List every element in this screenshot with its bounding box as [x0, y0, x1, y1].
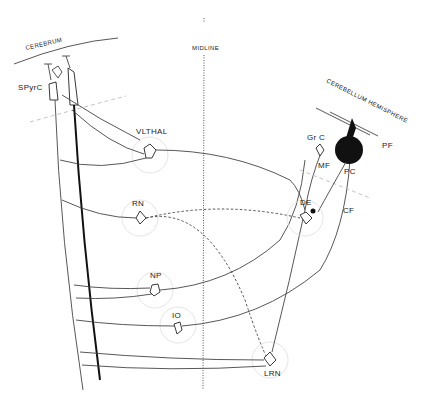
vlthal-label: VLTHAL — [136, 127, 168, 136]
io-label: IO — [172, 311, 181, 320]
cerebellum-surface — [316, 108, 370, 135]
corticospinal-tract-bold — [74, 105, 100, 380]
np-label: NP — [150, 271, 162, 280]
lrn-mossy-fiber — [272, 150, 322, 352]
diagram-canvas: CEREBRUM MIDLINE SPyrC VLTHAL RN NP IO — [0, 0, 429, 403]
lrn-label: LRN — [264, 369, 281, 378]
granule-cell — [316, 144, 324, 156]
pyramidal-cell-2 — [62, 56, 78, 105]
cortex-to-rn-axon — [62, 200, 136, 218]
purkinje-dendrite — [346, 118, 356, 140]
circuit-diagram: CEREBRUM MIDLINE SPyrC VLTHAL RN NP IO — [0, 0, 429, 403]
grc-label: Gr C — [307, 133, 325, 142]
cerebrum-label: CEREBRUM — [25, 37, 63, 51]
pf-label: PF — [382, 141, 393, 150]
de-to-rn-axon — [146, 209, 300, 218]
cerebellum-label: CEREBELLUM HEMISPHERE — [326, 78, 409, 124]
vlthal-neuron — [144, 144, 156, 158]
rn-to-lrn-axon — [146, 216, 268, 360]
cortex-to-io-axon — [76, 320, 174, 326]
spyrc-label: SPyrC — [18, 83, 43, 92]
pyramidal-cell-1 — [44, 64, 62, 100]
rn-neuron — [136, 211, 146, 224]
cortex-branch-vlthal — [60, 158, 146, 166]
de-label: DE — [300, 198, 312, 207]
cortex-to-lrn-axon-2 — [82, 365, 266, 369]
de-to-vlthal-axon — [156, 150, 305, 210]
de-neuron — [300, 212, 312, 224]
corticospinal-tract-thin — [55, 100, 83, 390]
purkinje-cell-body — [335, 136, 363, 164]
cortex-to-np-axon-1 — [74, 285, 150, 289]
lrn-neuron — [264, 352, 276, 366]
rn-label: RN — [132, 199, 144, 208]
pc-label: PC — [344, 167, 356, 176]
midline-line — [203, 55, 204, 390]
io-neuron — [174, 322, 182, 334]
mf-label: MF — [318, 161, 330, 170]
cerebral-cortex-boundary — [30, 96, 126, 122]
midline-label: MIDLINE — [192, 45, 219, 51]
io-climbing-fiber — [182, 160, 350, 326]
np-mossy-fiber — [160, 160, 305, 290]
cortex-to-lrn-axon-1 — [80, 352, 264, 360]
de-purkinje-synapse — [311, 209, 316, 214]
cortex-to-np-axon-2 — [76, 294, 152, 299]
vlthal-to-cortex-axon — [72, 110, 144, 154]
cerebrum-surface — [14, 38, 118, 64]
cf-label: CF — [343, 206, 354, 215]
